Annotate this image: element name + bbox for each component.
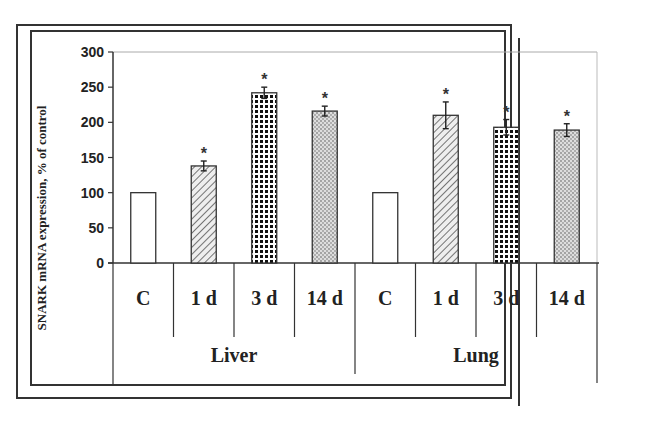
y-tick-label: 50 — [88, 220, 104, 236]
bar-liver-1d — [191, 166, 216, 263]
bar-liver-C — [131, 193, 156, 263]
bar-lung-1d — [433, 115, 458, 263]
y-tick-label: 200 — [81, 114, 105, 130]
category-label: 3 d — [251, 287, 277, 309]
significance-star: * — [201, 145, 208, 162]
significance-star: * — [443, 86, 450, 103]
category-label: 14 d — [307, 287, 343, 309]
y-tick-label: 250 — [81, 79, 105, 95]
bar-lung-C — [373, 193, 398, 263]
bar-liver-14d — [312, 111, 337, 263]
bar-lung-14d — [554, 130, 579, 263]
group-label-liver: Liver — [211, 344, 258, 366]
category-label: C — [378, 287, 392, 309]
category-label: C — [136, 287, 150, 309]
significance-star: * — [503, 104, 510, 121]
y-tick-label: 100 — [81, 185, 105, 201]
significance-star: * — [564, 108, 571, 125]
significance-star: * — [261, 71, 268, 88]
category-label: 1 d — [433, 287, 459, 309]
bar-lung-3d — [494, 127, 519, 263]
bar-liver-3d — [252, 93, 277, 263]
category-label: 1 d — [191, 287, 217, 309]
bar-chart: 050100150200250300SNARK mRNA expression,… — [0, 0, 646, 425]
y-tick-label: 150 — [81, 150, 105, 166]
category-label: 14 d — [549, 287, 585, 309]
significance-star: * — [322, 90, 329, 107]
y-tick-label: 0 — [96, 255, 104, 271]
y-tick-label: 300 — [81, 44, 105, 60]
category-label: 3 d — [493, 287, 519, 309]
group-label-lung: Lung — [453, 344, 499, 367]
y-axis-label: SNARK mRNA expression, % of control — [34, 105, 49, 330]
